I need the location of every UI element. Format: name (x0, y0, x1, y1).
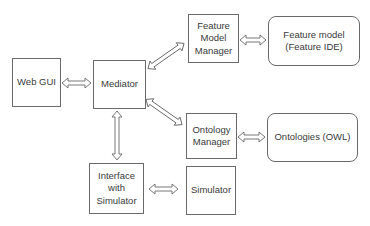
ontologies-node: Ontologies (OWL) (267, 113, 358, 162)
arrow-mediator-om (143, 95, 185, 128)
web-gui-label: Web GUI (17, 76, 56, 89)
arrow-fmm-featuremodel (240, 35, 266, 45)
arrow-mediator-interface (112, 111, 122, 160)
simulator-label: Simulator (191, 184, 231, 197)
feature-model-manager-node: Feature Model Manager (188, 14, 239, 63)
feature-model-manager-label: Feature Model Manager (195, 20, 233, 58)
ontology-manager-label: Ontology Manager (192, 124, 230, 149)
interface-simulator-label: Interface with Simulator (96, 170, 136, 208)
feature-model-label: Feature model (Feature IDE) (283, 29, 344, 54)
feature-model-node: Feature model (Feature IDE) (268, 16, 360, 66)
arrow-om-ontologies (238, 132, 265, 142)
mediator-node: Mediator (93, 60, 146, 109)
arrow-webgui-mediator (62, 78, 91, 88)
mediator-label: Mediator (101, 78, 138, 91)
arrow-mediator-fmm (145, 39, 187, 72)
interface-simulator-node: Interface with Simulator (89, 163, 144, 214)
simulator-node: Simulator (186, 166, 236, 215)
arrow-interface-simulator (149, 184, 178, 194)
ontologies-label: Ontologies (OWL) (274, 131, 350, 144)
ontology-manager-node: Ontology Manager (186, 113, 237, 159)
web-gui-node: Web GUI (12, 58, 61, 107)
